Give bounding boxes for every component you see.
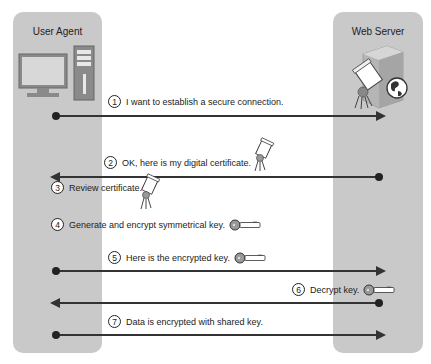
origin-dot bbox=[52, 267, 60, 275]
step-text: Here is the encrypted key. bbox=[126, 253, 230, 263]
desktop-computer-icon bbox=[17, 44, 99, 104]
arrowhead-left bbox=[50, 298, 60, 308]
origin-dot bbox=[375, 173, 383, 181]
step-5: 5 Here is the encrypted key. bbox=[108, 251, 268, 264]
step-1: 1 I want to establish a secure connectio… bbox=[108, 95, 284, 108]
arrow-client-to-server bbox=[55, 115, 384, 117]
step-text: Review certificate. bbox=[69, 183, 142, 193]
key-icon bbox=[234, 252, 268, 264]
step-2: 2 OK, here is my digital certificate. bbox=[104, 156, 251, 169]
arrowhead-right bbox=[376, 330, 386, 340]
step-number-badge: 3 bbox=[51, 181, 64, 194]
step-text: OK, here is my digital certificate. bbox=[122, 158, 251, 168]
server-with-certificate-and-globe-icon bbox=[341, 42, 421, 112]
step-text: Data is encrypted with shared key. bbox=[126, 317, 263, 327]
arrow-server-to-client bbox=[52, 302, 380, 304]
step-7: 7 Data is encrypted with shared key. bbox=[108, 315, 263, 328]
step-number-badge: 4 bbox=[51, 218, 64, 231]
key-icon bbox=[229, 219, 263, 231]
step-number-badge: 6 bbox=[292, 283, 305, 296]
web-server-label: Web Server bbox=[333, 26, 423, 37]
arrow-server-to-client bbox=[52, 176, 380, 178]
step-text: Decrypt key. bbox=[310, 285, 359, 295]
step-number-badge: 7 bbox=[108, 315, 121, 328]
step-text: Generate and encrypt symmetrical key. bbox=[69, 220, 225, 230]
arrow-client-to-server bbox=[55, 334, 384, 336]
step-number-badge: 2 bbox=[104, 156, 117, 169]
step-3: 3 Review certificate. bbox=[51, 181, 142, 194]
origin-dot bbox=[52, 112, 60, 120]
step-number-badge: 1 bbox=[108, 95, 121, 108]
step-number-badge: 5 bbox=[108, 251, 121, 264]
arrowhead-right bbox=[376, 266, 386, 276]
step-4: 4 Generate and encrypt symmetrical key. bbox=[51, 218, 263, 231]
origin-dot bbox=[375, 299, 383, 307]
certificate-icon bbox=[138, 170, 164, 210]
user-agent-label: User Agent bbox=[13, 26, 102, 37]
certificate-icon bbox=[252, 134, 278, 172]
arrow-client-to-server bbox=[55, 270, 384, 272]
step-6: 6 Decrypt key. bbox=[292, 283, 397, 296]
key-icon bbox=[363, 284, 397, 296]
origin-dot bbox=[52, 331, 60, 339]
step-text: I want to establish a secure connection. bbox=[126, 97, 284, 107]
arrowhead-right bbox=[376, 111, 386, 121]
